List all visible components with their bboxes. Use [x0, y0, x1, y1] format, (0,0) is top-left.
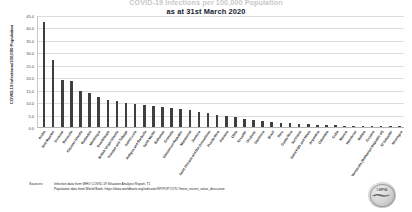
bar: [179, 109, 182, 127]
x-label-slot: El Salvador: [386, 129, 395, 181]
bar-slot: [395, 16, 404, 127]
bar: [362, 126, 365, 127]
sources-lines: Infection data from WHO COVID-19 Situati…: [54, 182, 225, 192]
bar-slot: [112, 16, 121, 127]
bar: [234, 117, 237, 127]
bar: [325, 125, 328, 127]
x-label-slot: Brazil: [267, 129, 276, 181]
bar-slot: [377, 16, 386, 127]
x-axis-tick-label: Brazil: [267, 130, 275, 140]
bar-slot: [222, 16, 231, 127]
bar-slot: [94, 16, 103, 127]
x-label-slot: Bermuda: [66, 129, 75, 181]
plot-area: [37, 16, 404, 128]
y-axis-tick-label: 25.0: [26, 63, 34, 68]
bar-slot: [249, 16, 258, 127]
bar-slot: [367, 16, 376, 127]
bar: [52, 60, 55, 127]
organization-logo: CARPHA: [368, 182, 396, 208]
bar-slot: [140, 16, 149, 127]
bar-slot: [194, 16, 203, 127]
y-axis-tick-label: 10.0: [26, 101, 34, 106]
bar-slot: [167, 16, 176, 127]
bar: [398, 126, 401, 127]
chart-title-block: COVID-19 Infections per 100,000 Populati…: [0, 0, 412, 16]
bar-slot: [331, 16, 340, 127]
bar-series: [38, 16, 404, 127]
bar-slot: [295, 16, 304, 127]
y-axis-tick-label: 20.0: [26, 76, 34, 81]
bar: [198, 112, 201, 127]
bar: [371, 126, 374, 127]
bar: [207, 113, 210, 127]
x-axis-labels: ArubaSint MaartenCuracaoBermudaCayman Is…: [37, 129, 404, 181]
x-label-slot: Colombia: [322, 129, 331, 181]
bar: [88, 93, 91, 127]
bar: [161, 107, 164, 127]
bar: [143, 105, 146, 127]
x-axis-tick-label: Chile: [230, 130, 238, 139]
x-axis-tick-label: Peru: [277, 130, 284, 138]
y-axis-tick-label: 5.0: [28, 113, 34, 118]
bar: [380, 126, 383, 127]
bar: [252, 120, 255, 127]
bar-slot: [322, 16, 331, 127]
source-line: Population data from World Bank: https:/…: [54, 187, 225, 192]
bar-slot: [85, 16, 94, 127]
y-axis-tick-label: 40.0: [26, 26, 34, 31]
bar: [79, 91, 82, 127]
bar: [107, 100, 110, 127]
bar: [270, 122, 273, 127]
bar-slot: [185, 16, 194, 127]
bar-slot: [49, 16, 58, 127]
bar: [43, 22, 46, 127]
sources-label: Sources:: [29, 182, 43, 186]
bar-slot: [358, 16, 367, 127]
bar: [61, 80, 64, 127]
bar: [334, 125, 337, 127]
x-label-slot: Panama: [221, 129, 230, 181]
chart-figure: COVID-19 Infections per 100,000 Populati…: [0, 0, 412, 212]
bar: [134, 104, 137, 127]
bar: [352, 126, 355, 127]
bar-slot: [349, 16, 358, 127]
y-axis-tick-label: 15.0: [26, 88, 34, 93]
bar-slot: [40, 16, 49, 127]
bar-slot: [258, 16, 267, 127]
bar-slot: [158, 16, 167, 127]
y-axis-tick-label: 35.0: [26, 38, 34, 43]
bar-slot: [240, 16, 249, 127]
bar: [389, 126, 392, 127]
bar: [316, 125, 319, 127]
bar-slot: [276, 16, 285, 127]
bar-slot: [149, 16, 158, 127]
bar: [343, 126, 346, 127]
bar-slot: [176, 16, 185, 127]
bar: [298, 124, 301, 127]
bar-slot: [76, 16, 85, 127]
bar-slot: [121, 16, 130, 127]
bar: [225, 116, 228, 127]
bar: [307, 124, 310, 127]
bar-slot: [340, 16, 349, 127]
chart-title: COVID-19 Infections per 100,000 Populati…: [0, 0, 412, 7]
bar: [70, 81, 73, 127]
x-label-slot: Dominica: [258, 129, 267, 181]
x-axis-tick-label: Cuba: [331, 130, 339, 139]
y-axis-ticks: 0.05.010.015.020.025.030.035.040.045.0: [0, 16, 36, 128]
bird-globe-seal-icon: [372, 193, 391, 198]
bar: [152, 106, 155, 127]
chart-subtitle: as at 31st March 2020: [0, 7, 412, 16]
y-axis-tick-label: 30.0: [26, 51, 34, 56]
bar: [289, 123, 292, 127]
y-axis-tick-label: 0.0: [28, 126, 34, 131]
bar: [243, 119, 246, 127]
bar: [125, 103, 128, 127]
bar: [261, 121, 264, 127]
bar: [216, 115, 219, 127]
x-label-slot: Nicaragua: [395, 129, 404, 181]
bar: [116, 101, 119, 127]
y-axis-tick-label: 45.0: [26, 14, 34, 19]
bar-slot: [103, 16, 112, 127]
bar-slot: [203, 16, 212, 127]
